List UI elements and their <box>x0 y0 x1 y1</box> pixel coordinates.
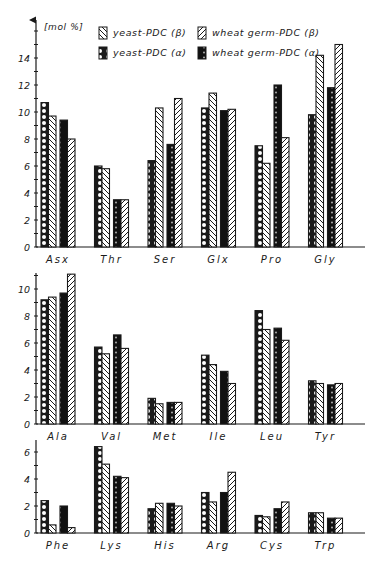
x-category-label: Glx <box>207 254 229 265</box>
bar-trp-yeast-alpha <box>309 513 317 533</box>
bar-asx-yeast-alpha <box>41 103 49 247</box>
y-tick-label: 2 <box>24 392 30 403</box>
bar-ser-wheat-alpha <box>167 144 175 247</box>
bar-cys-yeast-beta <box>263 517 271 533</box>
bar-ala-yeast-beta <box>49 297 57 424</box>
y-tick-label: 12 <box>18 80 30 91</box>
bar-thr-wheat-alpha <box>114 200 122 247</box>
bar-leu-yeast-beta <box>263 330 271 425</box>
bar-met-wheat-beta <box>175 402 183 424</box>
x-category-label: Asx <box>45 254 70 265</box>
bar-val-wheat-beta <box>121 348 129 424</box>
bar-ile-yeast-alpha <box>202 355 210 424</box>
legend-swatch-yeast-alpha <box>99 47 107 59</box>
bar-phe-yeast-alpha <box>41 501 49 533</box>
x-category-label: Met <box>153 431 178 442</box>
x-category-label: Ser <box>154 254 177 265</box>
bar-arg-yeast-alpha <box>202 493 210 534</box>
bar-ile-wheat-beta <box>228 384 236 425</box>
bar-lys-wheat-beta <box>121 478 129 533</box>
y-tick-label: 10 <box>18 284 30 295</box>
bar-trp-wheat-alpha <box>328 518 336 533</box>
y-tick-label: 6 <box>24 161 30 172</box>
y-tick-label: 0 <box>24 528 30 539</box>
bar-cys-yeast-alpha <box>255 515 263 533</box>
bar-glx-wheat-alpha <box>221 111 229 247</box>
bar-glx-yeast-alpha <box>202 108 210 247</box>
bar-val-yeast-beta <box>102 354 110 424</box>
bar-arg-yeast-beta <box>209 502 217 533</box>
bar-pro-wheat-beta <box>282 138 290 247</box>
bar-tyr-yeast-alpha <box>309 381 317 424</box>
bar-gly-yeast-alpha <box>309 115 317 247</box>
x-category-label: Phe <box>46 540 71 551</box>
legend-label-yeast-beta: yeast-PDC (β) <box>113 27 186 38</box>
x-category-label: Pro <box>261 254 283 265</box>
bar-phe-yeast-beta <box>49 525 57 533</box>
y-tick-label: 14 <box>18 53 30 64</box>
legend-swatch-wheat-beta <box>198 27 206 39</box>
y-axis-unit-label: [mol %] <box>44 22 83 32</box>
bar-val-wheat-alpha <box>114 335 122 424</box>
bar-glx-wheat-beta <box>228 109 236 247</box>
bar-ala-wheat-alpha <box>60 293 68 424</box>
bar-gly-wheat-beta <box>335 45 343 248</box>
y-tick-label: 2 <box>24 215 30 226</box>
bar-gly-yeast-beta <box>316 55 324 247</box>
y-tick-label: 4 <box>24 474 30 485</box>
y-tick-label: 0 <box>24 419 30 430</box>
legend-label-yeast-alpha: yeast-PDC (α) <box>113 47 187 58</box>
bar-tyr-yeast-beta <box>316 384 324 425</box>
bar-asx-wheat-beta <box>68 139 76 247</box>
bar-ser-yeast-alpha <box>148 161 156 247</box>
x-category-label: Cys <box>260 540 284 551</box>
bar-ser-yeast-beta <box>156 108 164 247</box>
panel-2: 0246810AlaValMetIleLeuTyr <box>18 273 365 442</box>
x-category-label: Val <box>101 431 122 442</box>
bar-met-yeast-alpha <box>148 398 156 424</box>
y-tick-label: 8 <box>24 134 30 145</box>
bar-leu-yeast-alpha <box>255 311 263 424</box>
y-tick-label: 6 <box>24 447 30 458</box>
bar-ile-yeast-beta <box>209 365 217 424</box>
y-tick-label: 2 <box>24 501 30 512</box>
legend-label-wheat-beta: wheat germ-PDC (β) <box>212 27 320 38</box>
y-tick-label: 10 <box>18 107 30 118</box>
x-category-label: His <box>154 540 176 551</box>
bar-arg-wheat-alpha <box>221 493 229 534</box>
bar-leu-wheat-alpha <box>274 328 282 424</box>
legend-swatch-wheat-alpha <box>198 47 206 59</box>
y-tick-label: 6 <box>24 338 30 349</box>
y-tick-label: 4 <box>24 188 30 199</box>
bar-leu-wheat-beta <box>282 340 290 424</box>
x-category-label: Arg <box>206 540 230 551</box>
bar-his-yeast-beta <box>156 503 164 533</box>
chart-canvas: 02468101214AsxThrSerGlxProGly0246810AlaV… <box>0 0 385 573</box>
bar-lys-yeast-beta <box>102 464 110 533</box>
bar-pro-wheat-alpha <box>274 85 282 247</box>
bar-his-wheat-alpha <box>167 503 175 533</box>
amino-acid-composition-chart: 02468101214AsxThrSerGlxProGly0246810AlaV… <box>0 0 385 573</box>
x-category-label: Leu <box>260 431 284 442</box>
x-category-label: Tyr <box>315 431 336 442</box>
bar-thr-yeast-beta <box>102 169 110 247</box>
bar-ser-wheat-beta <box>175 99 183 248</box>
bar-phe-wheat-beta <box>68 528 76 533</box>
bar-phe-wheat-alpha <box>60 506 68 533</box>
legend-label-wheat-alpha: wheat germ-PDC (α) <box>212 47 320 58</box>
bar-lys-yeast-alpha <box>95 447 103 533</box>
bar-his-yeast-alpha <box>148 509 156 533</box>
bar-lys-wheat-alpha <box>114 476 122 533</box>
bar-val-yeast-alpha <box>95 347 103 424</box>
bar-pro-yeast-alpha <box>255 146 263 247</box>
x-category-label: Thr <box>100 254 123 265</box>
x-category-label: Ile <box>210 431 228 442</box>
x-category-label: Gly <box>314 254 336 265</box>
bar-gly-wheat-alpha <box>328 88 336 247</box>
panel-3: 0246PheLysHisArgCysTrp <box>24 440 365 551</box>
bar-pro-yeast-beta <box>263 163 271 247</box>
bar-tyr-wheat-alpha <box>328 385 336 424</box>
bar-arg-wheat-beta <box>228 472 236 533</box>
bar-asx-yeast-beta <box>49 116 57 247</box>
y-tick-label: 0 <box>24 242 30 253</box>
